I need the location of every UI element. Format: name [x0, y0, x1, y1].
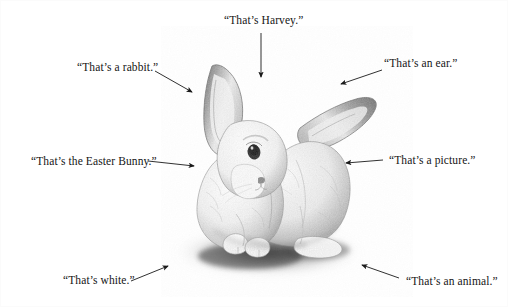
figure-border [0, 0, 508, 307]
rabbit-ostensive-definition-figure: “That’s Harvey.” “That’s a rabbit.” “Tha… [0, 0, 508, 307]
